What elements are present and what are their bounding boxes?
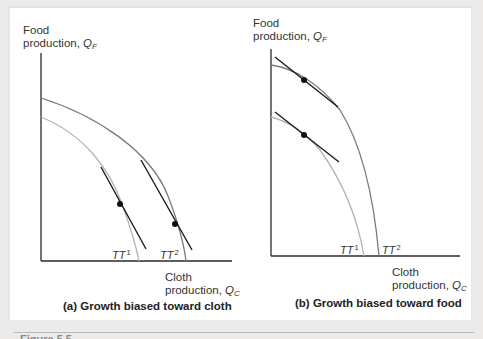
- panel-a-y-label-text: production,: [23, 37, 83, 49]
- panel-a-x-symbol: Q: [225, 284, 234, 296]
- panel-b-x-label-line1: Cloth: [392, 266, 467, 279]
- panel-a-tt2-label: TT2: [160, 248, 179, 261]
- panel-a-y-subscript: F: [92, 42, 97, 51]
- panel-b-y-axis-label: Food production, QF: [253, 17, 327, 46]
- panel-b-y-label-line1: Food: [253, 17, 327, 30]
- figure-number: Figure 5.5: [20, 333, 72, 339]
- panel-b-tt1-label: TT1: [340, 243, 359, 256]
- panel-b-tt2-text: TT: [382, 244, 395, 256]
- panel-a-x-label-text: production,: [165, 284, 225, 296]
- panel-b-x-label-line2: production, QC: [392, 279, 467, 295]
- panel-a-y-axis-label: Food production, QF: [23, 24, 97, 53]
- panel-b-tangent-1: [275, 112, 339, 162]
- panel-b-y-subscript: F: [322, 35, 327, 44]
- panel-a-ppf-tt1: [41, 117, 139, 261]
- panel-b-y-symbol: Q: [313, 30, 322, 42]
- panel-b-production-point-2: [301, 77, 307, 83]
- panel-b-plot: [271, 49, 460, 256]
- panel-a-tt1-sup: 1: [126, 248, 130, 257]
- panel-b-tt1-text: TT: [340, 244, 353, 256]
- panel-b-ppf-tt2: [271, 65, 379, 256]
- panel-a-caption: (a) Growth biased toward cloth: [63, 300, 232, 312]
- panel-a-tt2-text: TT: [160, 249, 173, 261]
- panel-a-tt1-label: TT1: [112, 248, 131, 261]
- panel-a-tangent-2: [141, 160, 192, 250]
- panel-b-x-symbol: Q: [452, 279, 461, 291]
- panel-a-y-label-line1: Food: [23, 24, 97, 37]
- panel-a-x-axis-label: Cloth production, QC: [165, 271, 240, 300]
- panel-a-x-label-line1: Cloth: [165, 271, 240, 284]
- panel-a-ppf-tt2: [41, 98, 186, 261]
- panel-a-tt2-sup: 2: [174, 248, 178, 257]
- panel-a-tt1-text: TT: [112, 249, 125, 261]
- panel-a-x-subscript: C: [234, 289, 240, 298]
- panel-b-tt1-sup: 1: [354, 243, 358, 252]
- panel-a-x-label-line2: production, QC: [165, 284, 240, 300]
- panel-a-production-point-2: [172, 221, 178, 227]
- panel-b-production-point-1: [301, 132, 307, 138]
- panel-b-tangent-2: [275, 57, 338, 107]
- panel-a-production-point-1: [117, 201, 123, 207]
- panel-b-ppf-tt1: [271, 117, 364, 256]
- panel-b-y-label-text: production,: [253, 30, 313, 42]
- panel-b-x-label-text: production,: [392, 279, 452, 291]
- panel-b-x-axis-label: Cloth production, QC: [392, 266, 467, 295]
- panel-b-caption: (b) Growth biased toward food: [295, 297, 462, 309]
- panel-b-tt2-label: TT2: [382, 243, 401, 256]
- panel-b-tt2-sup: 2: [396, 243, 400, 252]
- panel-a-tangent-1: [101, 167, 146, 249]
- caption-divider: [14, 332, 474, 333]
- panel-b-x-subscript: C: [461, 284, 467, 293]
- panel-a-plot: [41, 53, 232, 261]
- panel-a-y-symbol: Q: [83, 37, 92, 49]
- panel-a-y-label-line2: production, QF: [23, 37, 97, 53]
- panel-b-y-label-line2: production, QF: [253, 30, 327, 46]
